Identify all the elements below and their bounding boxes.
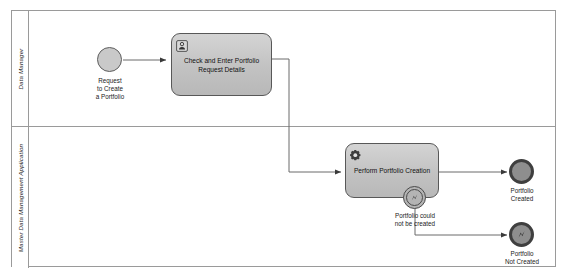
- end-event-portfolio-created-label: Portfolio Created: [494, 187, 550, 203]
- user-task-icon: [176, 38, 187, 49]
- task-check-and-enter-label: Check and Enter Portfolio Request Detail…: [178, 56, 265, 74]
- start-event-icon: [98, 48, 121, 71]
- lane-data-manager[interactable]: Data Manager: [12, 11, 555, 127]
- end-event-portfolio-created[interactable]: [509, 159, 534, 184]
- task-check-and-enter[interactable]: Check and Enter Portfolio Request Detail…: [171, 33, 272, 96]
- end-event-portfolio-not-created[interactable]: [509, 222, 534, 247]
- lane-label-mdm-application: Master Data Management Application: [17, 143, 24, 251]
- end-event-portfolio-not-created-label: Portfolio Not Created: [490, 250, 554, 266]
- pool: Data Manager Master Data Management Appl…: [11, 10, 556, 267]
- lane-header-mdm-application: Master Data Management Application: [12, 127, 29, 268]
- service-task-gear-icon: [350, 148, 361, 159]
- boundary-event-label: Portfolio could not be created: [385, 212, 445, 228]
- start-event-request-portfolio[interactable]: [97, 47, 122, 72]
- end-event-icon: [512, 162, 531, 181]
- lane-label-data-manager: Data Manager: [17, 48, 24, 89]
- bpmn-canvas: Data Manager Master Data Management Appl…: [0, 0, 567, 278]
- lane-header-data-manager: Data Manager: [12, 11, 29, 126]
- error-end-event-icon: [512, 225, 531, 244]
- error-boundary-event-icon: [404, 187, 425, 208]
- boundary-event-portfolio-not-created[interactable]: [403, 186, 426, 209]
- lane-mdm-application[interactable]: Master Data Management Application: [12, 127, 555, 268]
- start-event-label: Request to Create a Portfolio: [79, 77, 141, 102]
- task-perform-portfolio-creation[interactable]: Perform Portfolio Creation: [345, 143, 439, 198]
- task-perform-portfolio-creation-label: Perform Portfolio Creation: [348, 166, 436, 175]
